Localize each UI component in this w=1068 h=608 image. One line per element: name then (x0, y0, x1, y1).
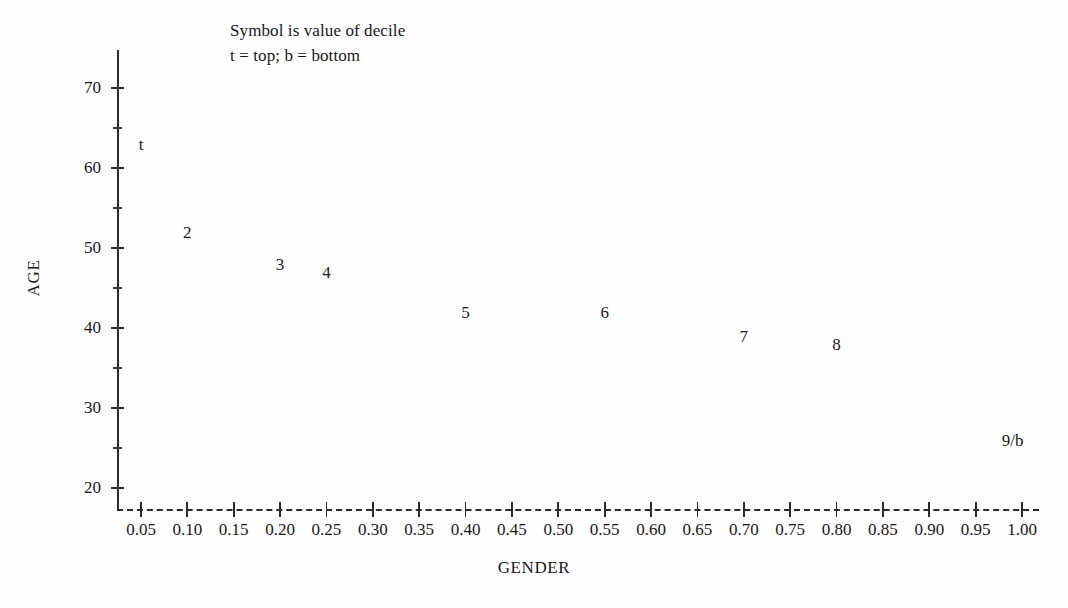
y-tick-label-text: 30 (55, 399, 101, 416)
chart-annotation: Symbol is value of decile t = top; b = b… (230, 18, 405, 68)
data-point-label: 4 (322, 264, 331, 281)
y-tick-label-text: 50 (55, 239, 101, 256)
data-point-label: 7 (740, 328, 749, 345)
data-point-label: 9/b (1002, 432, 1024, 449)
y-tick-major (111, 167, 124, 169)
annotation-line-1: Symbol is value of decile (230, 18, 405, 43)
y-tick-label: 20 (55, 479, 101, 496)
x-tick (557, 502, 559, 517)
y-tick-minor (113, 367, 122, 368)
x-axis-title: GENDER (0, 558, 1068, 578)
data-point-label: 2 (183, 224, 192, 241)
x-tick (697, 502, 699, 517)
y-tick-minor (113, 287, 122, 288)
x-tick (604, 502, 606, 517)
y-tick-label: 60 (55, 159, 101, 176)
x-tick (928, 502, 930, 517)
y-tick-minor (113, 127, 122, 128)
y-tick-major (111, 327, 124, 329)
data-point-label: 8 (832, 336, 841, 353)
data-point-label: 5 (461, 304, 470, 321)
x-tick (1021, 502, 1023, 517)
x-tick (372, 502, 374, 517)
y-tick-label-text: 60 (55, 159, 101, 176)
y-tick-major (111, 407, 124, 409)
x-tick (882, 502, 884, 517)
x-tick (743, 502, 745, 517)
y-tick-label: 50 (55, 239, 101, 256)
y-tick-label-text: 70 (55, 79, 101, 96)
y-tick-major (111, 87, 124, 89)
y-tick-major (111, 487, 124, 489)
y-tick-label-text: 40 (55, 319, 101, 336)
x-tick (140, 502, 142, 517)
y-tick-label-text: 20 (55, 479, 101, 496)
y-tick-minor (113, 207, 122, 208)
y-tick-major (111, 247, 124, 249)
annotation-line-2: t = top; b = bottom (230, 43, 405, 68)
x-tick (975, 502, 977, 517)
y-tick-label: 30 (55, 399, 101, 416)
y-tick-label: 70 (55, 79, 101, 96)
x-tick (186, 502, 188, 517)
x-tick (650, 502, 652, 517)
x-tick (326, 502, 328, 517)
scatter-plot-figure: Symbol is value of decile t = top; b = b… (0, 0, 1068, 608)
x-tick (279, 502, 281, 517)
data-point-label: t (139, 136, 144, 153)
x-tick (511, 502, 513, 517)
x-tick (789, 502, 791, 517)
y-axis-line (117, 50, 119, 511)
x-tick (836, 502, 838, 517)
x-tick (233, 502, 235, 517)
y-axis-title: AGE (24, 238, 44, 318)
y-tick-label: 40 (55, 319, 101, 336)
y-tick-minor (113, 447, 122, 448)
x-tick (465, 502, 467, 517)
x-tick (418, 502, 420, 517)
x-axis-line (117, 509, 1039, 511)
data-point-label: 3 (276, 256, 285, 273)
data-point-label: 6 (600, 304, 609, 321)
x-tick-label: 1.00 (992, 520, 1052, 540)
